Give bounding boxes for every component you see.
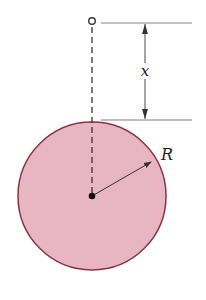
label-x: x xyxy=(141,62,150,80)
center-dot-icon xyxy=(89,193,96,200)
arrowhead-down-icon xyxy=(142,109,148,119)
diagram-canvas: x R xyxy=(0,0,206,300)
label-radius: R xyxy=(160,145,173,164)
arrowhead-up-icon xyxy=(142,24,148,34)
point-mass-icon xyxy=(89,18,96,25)
